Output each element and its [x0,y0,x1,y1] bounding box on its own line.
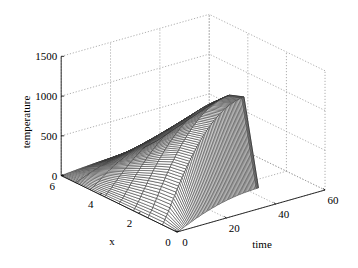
time-tick-label: 60 [328,194,340,206]
x-tick-label: 0 [165,236,171,248]
x-tick-label: 2 [127,217,133,229]
x-tick-label: 4 [88,198,94,210]
z-tick-label: 1000 [35,90,58,102]
surface-plot-svg: 05001000150002460204060 temperature x ti… [0,0,358,268]
time-axis-label: time [252,238,272,250]
time-tick-label: 20 [229,222,241,234]
x-axis-label: x [109,235,115,247]
z-tick-label: 500 [41,130,58,142]
time-tick-label: 40 [278,208,290,220]
temperature-surface-chart: 05001000150002460204060 temperature x ti… [0,0,358,268]
x-tick-label: 6 [49,180,55,192]
z-tick-label: 1500 [35,50,58,62]
time-tick-label: 0 [182,236,188,248]
z-axis-label: temperature [20,96,32,149]
surface-mesh [61,95,258,232]
